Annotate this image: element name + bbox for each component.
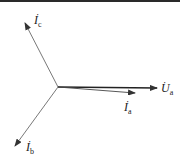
label-symbol: U <box>161 81 170 95</box>
label-subscript: c <box>38 20 42 29</box>
label-subscript: a <box>128 107 132 116</box>
label-ic: · Ic <box>34 14 42 29</box>
phasor-diagram: · Ic · Ua · Ia · Ib <box>0 0 180 158</box>
label-subscript: b <box>30 147 34 156</box>
phasor-ib-arrow <box>15 87 58 146</box>
phasor-lines <box>0 2 180 158</box>
phasor-ic-arrow <box>25 23 58 87</box>
label-symbol: I <box>124 100 128 114</box>
label-symbol: I <box>26 140 30 154</box>
label-ua: · Ua <box>161 82 173 97</box>
label-ib: · Ib <box>26 141 34 156</box>
label-ia: · Ia <box>124 101 132 116</box>
label-symbol: I <box>34 13 38 27</box>
label-subscript: a <box>170 88 174 97</box>
